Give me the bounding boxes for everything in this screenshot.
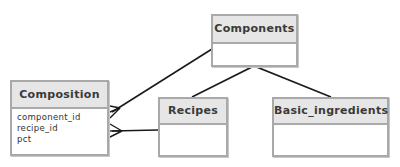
entity-components[interactable]: Components: [211, 14, 298, 67]
entity-recipes[interactable]: Recipes: [158, 97, 228, 157]
field-component-id: component_id: [17, 112, 102, 123]
entity-header: Recipes: [160, 99, 226, 125]
entity-header: Components: [213, 16, 296, 44]
field-pct: pct: [17, 134, 102, 145]
entity-body: [274, 125, 387, 131]
entity-basic-ingredients[interactable]: Basic_ingredients: [272, 97, 389, 157]
crows-foot-icon: [110, 124, 122, 137]
entity-body: component_id recipe_id pct: [12, 109, 107, 148]
er-diagram-canvas: Components Composition component_id reci…: [0, 0, 400, 167]
entity-body: [213, 44, 296, 50]
entity-header: Composition: [12, 82, 107, 109]
crows-foot-icon: [110, 106, 120, 118]
entity-body: [160, 125, 226, 131]
entity-header: Basic_ingredients: [274, 99, 387, 125]
line-components-subtypes: [192, 66, 331, 97]
entity-composition[interactable]: Composition component_id recipe_id pct: [10, 80, 109, 156]
field-recipe-id: recipe_id: [17, 123, 102, 134]
